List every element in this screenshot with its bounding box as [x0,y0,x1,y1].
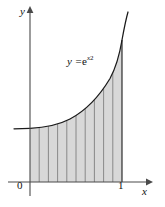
y-axis-arrowhead [27,6,34,13]
equation-exponent-power: 2 [90,54,94,62]
origin-tick-label: 0 [17,180,23,191]
x-tick-label-one: 1 [118,180,124,191]
y-axis-label: y [20,6,25,17]
x-axis-arrowhead [146,179,153,186]
equation-exponent: x2 [87,54,94,62]
figure-area-under-exponential-curve: y x 0 1 y =ex2 [0,0,165,207]
plot-canvas [0,0,165,207]
equation-lhs: y = [67,55,82,67]
x-axis-label: x [142,186,147,197]
curve-equation-annotation: y =ex2 [67,55,94,67]
